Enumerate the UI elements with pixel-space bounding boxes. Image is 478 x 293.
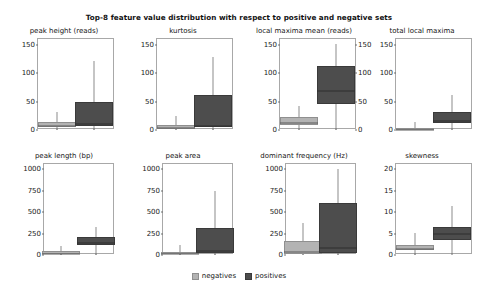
box-dominant-frequency-positives xyxy=(319,164,357,253)
plot-area-peak-height: 050100150 xyxy=(37,38,114,129)
legend-entry-negatives: negatives xyxy=(192,272,236,280)
ytick-mark-local-maxima-mean-0 xyxy=(278,130,280,131)
ytick-label-kurtosis-1: 50 xyxy=(145,98,154,106)
subplot-local-maxima-mean: local maxima mean (reads)005050100100150… xyxy=(252,27,356,139)
box-peak-area-positives xyxy=(196,164,234,253)
plot-area-peak-area: 02505007501000 xyxy=(162,163,233,254)
legend-swatch-positives xyxy=(245,273,252,280)
whisker-peak-height-negatives xyxy=(56,112,57,130)
box-skewness-positives xyxy=(433,164,471,253)
box-peak-length-negatives xyxy=(42,164,80,253)
plot-area-kurtosis: 050100150 xyxy=(156,38,233,129)
quartile-box-local-maxima-mean-positives xyxy=(317,66,355,104)
subplot-skewness: skewness05101520 xyxy=(372,152,472,264)
ytick-label-total-local-maxima-3: 150 xyxy=(380,41,393,49)
box-peak-height-negatives xyxy=(38,39,76,128)
plot-area-peak-length: 02505007501000 xyxy=(43,163,114,254)
ytick-label-peak-height-3: 150 xyxy=(22,41,35,49)
ytick-label-total-local-maxima-2: 100 xyxy=(380,69,393,77)
ytick-label-dominant-frequency-0: 0 xyxy=(279,251,283,259)
median-line-peak-length-negatives xyxy=(42,253,80,254)
subplot-title-peak-length: peak length (bp) xyxy=(14,152,114,160)
median-line-local-maxima-mean-negatives xyxy=(280,123,318,124)
median-line-kurtosis-positives xyxy=(194,125,232,126)
ytick-label-skewness-1: 5 xyxy=(389,230,393,238)
ytick-mark-peak-length-0 xyxy=(42,255,44,256)
quartile-box-dominant-frequency-positives xyxy=(319,203,357,253)
box-total-local-maxima-negatives xyxy=(396,39,434,128)
ytick-mark-dominant-frequency-0 xyxy=(284,255,286,256)
median-line-peak-height-negatives xyxy=(38,125,76,126)
legend-swatch-negatives xyxy=(192,273,199,280)
median-line-peak-area-positives xyxy=(196,251,234,252)
subplot-title-dominant-frequency: dominant frequency (Hz) xyxy=(252,152,356,160)
ytick-label-local-maxima-mean-0: 0 xyxy=(273,126,277,134)
ytick-mark-local-maxima-mean-3 xyxy=(355,44,357,45)
chart-legend: negativespositives xyxy=(0,272,478,280)
subplot-peak-height: peak height (reads)050100150 xyxy=(14,27,114,139)
ytick-label-skewness-4: 20 xyxy=(384,165,393,173)
subplot-title-skewness: skewness xyxy=(372,152,472,160)
ytick-label-local-maxima-mean-3: 150 xyxy=(358,41,371,49)
ytick-label-skewness-2: 10 xyxy=(384,208,393,216)
ytick-label-peak-length-0: 0 xyxy=(37,251,41,259)
quartile-box-total-local-maxima-positives xyxy=(433,112,471,123)
ytick-label-local-maxima-mean-3: 150 xyxy=(264,41,277,49)
median-line-total-local-maxima-negatives xyxy=(396,129,434,130)
ytick-mark-kurtosis-0 xyxy=(155,130,157,131)
box-peak-height-positives xyxy=(75,39,113,128)
ytick-label-local-maxima-mean-2: 100 xyxy=(358,69,371,77)
subplot-total-local-maxima: total local maxima050100150 xyxy=(372,27,472,139)
legend-entry-positives: positives xyxy=(245,272,286,280)
ytick-label-peak-height-2: 100 xyxy=(22,69,35,77)
box-dominant-frequency-negatives xyxy=(284,164,322,253)
subplot-title-total-local-maxima: total local maxima xyxy=(372,27,472,35)
box-kurtosis-positives xyxy=(194,39,232,128)
ytick-label-dominant-frequency-1: 250 xyxy=(270,230,283,238)
median-line-kurtosis-negatives xyxy=(157,128,195,129)
ytick-label-kurtosis-0: 0 xyxy=(150,126,154,134)
subplot-title-peak-height: peak height (reads) xyxy=(14,27,114,35)
median-line-skewness-negatives xyxy=(396,248,434,249)
ytick-label-total-local-maxima-0: 0 xyxy=(389,126,393,134)
plot-area-local-maxima-mean: 005050100100150150 xyxy=(279,38,356,129)
ytick-label-peak-area-0: 0 xyxy=(156,251,160,259)
ytick-label-local-maxima-mean-1: 50 xyxy=(358,98,367,106)
legend-label-positives: positives xyxy=(255,272,286,280)
median-line-peak-area-negatives xyxy=(161,254,199,255)
subplot-title-local-maxima-mean: local maxima mean (reads) xyxy=(252,27,356,35)
median-line-skewness-positives xyxy=(433,233,471,234)
legend-label-negatives: negatives xyxy=(202,272,236,280)
plot-area-skewness: 05101520 xyxy=(395,163,472,254)
figure-title: Top-8 feature value distribution with re… xyxy=(0,13,478,22)
ytick-label-peak-height-0: 0 xyxy=(31,126,35,134)
box-peak-area-negatives xyxy=(161,164,199,253)
ytick-label-local-maxima-mean-2: 100 xyxy=(264,69,277,77)
ytick-mark-local-maxima-mean-1 xyxy=(355,101,357,102)
ytick-label-local-maxima-mean-0: 0 xyxy=(358,126,362,134)
ytick-label-skewness-0: 0 xyxy=(389,251,393,259)
subplot-kurtosis: kurtosis050100150 xyxy=(133,27,233,139)
ytick-label-dominant-frequency-4: 1000 xyxy=(265,165,283,173)
plot-area-total-local-maxima: 050100150 xyxy=(395,38,472,129)
ytick-label-dominant-frequency-2: 500 xyxy=(270,208,283,216)
ytick-label-peak-area-2: 500 xyxy=(147,208,160,216)
ytick-label-peak-area-3: 750 xyxy=(147,187,160,195)
xtick-mark-skewness-1 xyxy=(452,253,453,255)
box-total-local-maxima-positives xyxy=(433,39,471,128)
quartile-box-peak-height-positives xyxy=(75,102,113,126)
ytick-mark-peak-height-0 xyxy=(36,130,38,131)
ytick-label-total-local-maxima-1: 50 xyxy=(384,98,393,106)
subplot-title-peak-area: peak area xyxy=(133,152,233,160)
ytick-label-peak-length-2: 500 xyxy=(28,208,41,216)
median-line-peak-height-positives xyxy=(75,124,113,125)
ytick-label-dominant-frequency-3: 750 xyxy=(270,187,283,195)
ytick-label-kurtosis-2: 100 xyxy=(141,69,154,77)
ytick-label-peak-length-1: 250 xyxy=(28,230,41,238)
ytick-label-peak-length-3: 750 xyxy=(28,187,41,195)
ytick-label-skewness-3: 15 xyxy=(384,187,393,195)
figure-canvas: Top-8 feature value distribution with re… xyxy=(0,0,478,293)
box-skewness-negatives xyxy=(396,164,434,253)
ytick-label-peak-area-1: 250 xyxy=(147,230,160,238)
median-line-dominant-frequency-positives xyxy=(319,248,357,249)
